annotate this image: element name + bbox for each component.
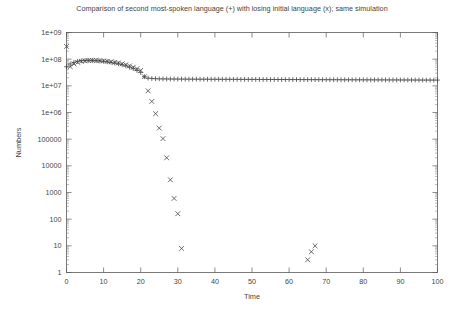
data-point-cross xyxy=(172,196,177,201)
data-point-plus xyxy=(435,78,440,83)
data-point-cross xyxy=(161,136,166,141)
x-tick-label: 0 xyxy=(65,277,69,286)
y-tick-label: 10000 xyxy=(42,161,62,170)
x-tick-label: 80 xyxy=(359,277,367,286)
plot-area: 1101001000100001000001e+061e+071e+081e+0… xyxy=(0,0,464,309)
data-point-cross xyxy=(168,177,173,182)
x-tick-label: 60 xyxy=(285,277,293,286)
y-tick-label: 1e+08 xyxy=(41,55,61,64)
x-tick-label: 70 xyxy=(322,277,330,286)
chart-container: Comparison of second most-spoken languag… xyxy=(0,0,464,309)
data-point-cross xyxy=(305,257,310,262)
data-point-cross xyxy=(309,249,314,254)
y-tick-label: 1e+07 xyxy=(41,81,61,90)
y-tick-label: 1e+06 xyxy=(41,108,61,117)
y-tick-label: 100000 xyxy=(38,135,62,144)
data-point-cross xyxy=(153,111,158,116)
plot-frame xyxy=(67,33,438,273)
x-axis-tick-labels: 0102030405060708090100 xyxy=(65,277,444,286)
data-point-cross xyxy=(157,126,162,131)
x-tick-label: 30 xyxy=(174,277,182,286)
y-tick-label: 1 xyxy=(58,268,62,277)
x-tick-label: 50 xyxy=(248,277,256,286)
data-point-cross xyxy=(179,246,184,251)
x-tick-label: 10 xyxy=(100,277,108,286)
y-axis-tick-labels: 1101001000100001000001e+061e+071e+081e+0… xyxy=(38,28,62,277)
data-point-cross xyxy=(175,211,180,216)
x-tick-label: 100 xyxy=(432,277,444,286)
y-tick-label: 100 xyxy=(50,215,62,224)
y-tick-label: 1000 xyxy=(46,188,62,197)
x-tick-label: 90 xyxy=(396,277,404,286)
axis-ticks xyxy=(67,33,438,273)
y-tick-label: 10 xyxy=(54,241,62,250)
data-point-cross xyxy=(149,99,154,104)
x-tick-label: 40 xyxy=(211,277,219,286)
y-tick-label: 1e+09 xyxy=(41,28,61,37)
data-point-cross xyxy=(146,88,151,93)
series-losing-initial-language-markers xyxy=(64,44,317,262)
x-tick-label: 20 xyxy=(137,277,145,286)
data-point-cross xyxy=(164,155,169,160)
data-point-cross xyxy=(313,243,318,248)
